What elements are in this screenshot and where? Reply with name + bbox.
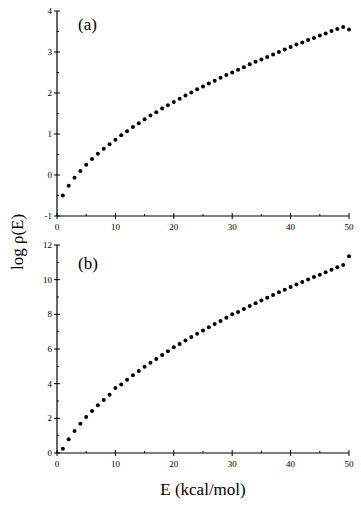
data-point [102, 147, 106, 151]
data-point [294, 43, 298, 47]
data-point [300, 280, 304, 284]
data-point [119, 133, 123, 137]
data-point [166, 349, 170, 353]
data-point [108, 142, 112, 146]
data-point [148, 114, 152, 118]
data-point [324, 270, 328, 274]
data-point [329, 29, 333, 33]
data-point [73, 176, 77, 180]
data-point [277, 50, 281, 54]
data-point [125, 129, 129, 133]
data-point [289, 45, 293, 49]
data-point [306, 277, 310, 281]
data-point [96, 403, 100, 407]
data-point [213, 79, 217, 83]
x-tick-label: 20 [169, 459, 179, 469]
data-point [102, 398, 106, 402]
data-point [131, 373, 135, 377]
data-point [224, 73, 228, 77]
data-point [154, 357, 158, 361]
data-point [84, 163, 88, 167]
y-tick-label: 1 [48, 129, 53, 139]
data-point [178, 97, 182, 101]
data-point [166, 103, 170, 107]
data-point [242, 307, 246, 311]
data-point [61, 194, 65, 198]
chart-figure: -10123401020304050 02468101201020304050 … [0, 0, 361, 508]
data-point [189, 91, 193, 95]
y-tick-label: 3 [48, 47, 53, 57]
panel-a: -10123401020304050 [45, 6, 355, 232]
data-point [236, 68, 240, 72]
x-tick-label: 0 [55, 222, 60, 232]
data-point [219, 76, 223, 80]
data-point [189, 335, 193, 339]
data-point [96, 152, 100, 156]
data-point [160, 107, 164, 111]
data-point [318, 273, 322, 277]
data-point [160, 353, 164, 357]
data-point [73, 429, 77, 433]
x-tick-label: 10 [111, 459, 121, 469]
y-tick-label: 12 [43, 240, 52, 250]
data-point [67, 184, 71, 188]
data-point [108, 393, 112, 397]
data-point [90, 409, 94, 413]
data-point [195, 332, 199, 336]
data-point [213, 322, 217, 326]
data-point [318, 34, 322, 38]
data-point [341, 263, 345, 267]
y-tick-label: 6 [48, 344, 53, 354]
data-point [312, 275, 316, 279]
data-point [143, 117, 147, 121]
data-point [277, 290, 281, 294]
data-point [335, 265, 339, 269]
data-point [183, 93, 187, 97]
data-point [341, 25, 345, 29]
x-tick-label: 30 [228, 222, 238, 232]
x-tick-label: 0 [55, 459, 60, 469]
data-point [113, 386, 117, 390]
data-point [78, 422, 82, 426]
data-point [172, 100, 176, 104]
data-point [294, 283, 298, 287]
y-tick-label: 8 [48, 309, 53, 319]
data-point [84, 415, 88, 419]
data-point [271, 52, 275, 56]
data-point [119, 383, 123, 387]
data-point [143, 365, 147, 369]
data-point [300, 41, 304, 45]
data-point [265, 296, 269, 300]
data-point [207, 325, 211, 329]
y-tick-label: -1 [45, 211, 53, 221]
x-tick-label: 40 [286, 222, 296, 232]
data-point [137, 369, 141, 373]
data-point [230, 312, 234, 316]
data-point [172, 345, 176, 349]
panel-b-label: (b) [78, 254, 98, 273]
data-point [125, 378, 129, 382]
data-point [283, 288, 287, 292]
x-tick-label: 50 [345, 459, 355, 469]
y-tick-label: 4 [48, 6, 53, 16]
data-point [137, 121, 141, 125]
x-tick-label: 40 [286, 459, 296, 469]
data-point [347, 254, 351, 258]
y-tick-label: 0 [48, 170, 53, 180]
data-point [335, 27, 339, 31]
x-tick-label: 10 [111, 222, 121, 232]
data-point [131, 125, 135, 129]
data-point [201, 84, 205, 88]
y-tick-label: 2 [48, 413, 53, 423]
data-point [324, 32, 328, 36]
data-point [289, 285, 293, 289]
data-point [329, 268, 333, 272]
data-point [242, 65, 246, 69]
y-axis-title: log ρ(E) [8, 214, 27, 270]
panel-a-label: (a) [78, 15, 97, 34]
data-point [148, 361, 152, 365]
y-tick-label: 0 [48, 448, 53, 458]
data-point [312, 36, 316, 40]
data-point [154, 110, 158, 114]
data-point [283, 48, 287, 52]
